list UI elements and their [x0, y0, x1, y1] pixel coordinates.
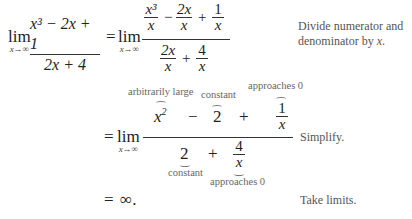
term-4-over-x: 4 x: [233, 139, 245, 170]
plus-sign: +: [208, 144, 218, 164]
rhs-fraction: x³ x − 2x x + 1 x 2x x + 4 x: [142, 2, 230, 76]
lim-subscript: x→∞: [118, 45, 141, 54]
limit-operator-2: lim x→∞: [118, 28, 141, 54]
term-4-over-x: 4 x: [196, 43, 208, 74]
lim-word: lim: [118, 28, 141, 45]
term-2x-over-x: 2x x: [176, 2, 192, 33]
term-2x-over-x: 2x x: [160, 43, 176, 74]
note-divide: Divide numerator and denominator by x.: [298, 19, 403, 49]
equals-sign: =: [104, 127, 114, 147]
limit-operator-1: lim x→∞: [8, 28, 31, 54]
annotation-approaches-top: approaches 0: [248, 80, 303, 91]
term-x3-over-x: x³ x: [144, 2, 158, 33]
term-1-over-x: 1 x: [276, 101, 288, 132]
equals-sign: =: [104, 190, 114, 210]
lhs-numerator: x³ − 2x + 1: [30, 14, 100, 54]
lhs-denominator: 2x + 4: [44, 55, 86, 75]
lim-subscript: x→∞: [117, 145, 140, 154]
note-simplify: Simplify.: [300, 130, 344, 145]
main-fraction-bar: [143, 137, 293, 138]
lhs-fraction: x³ − 2x + 1 2x + 4: [30, 14, 100, 75]
main-fraction-bar: [142, 39, 230, 40]
minus-sign: −: [188, 107, 198, 127]
annotation-constant-top: constant: [201, 89, 236, 100]
note-take-limits: Take limits.: [300, 193, 356, 208]
overbrace: [156, 101, 166, 105]
constant-2: 2: [213, 107, 222, 127]
term-1-over-x: 1 x: [212, 2, 224, 33]
result-infinity: ∞.: [120, 190, 136, 210]
lim-word: lim: [117, 128, 140, 145]
constant-2: 2: [180, 144, 189, 164]
equals-sign: =: [106, 27, 116, 47]
limit-operator-3: lim x→∞: [117, 128, 140, 154]
lim-word: lim: [8, 28, 31, 45]
plus-sign: +: [239, 107, 249, 127]
term-x-squared: x2: [154, 106, 167, 127]
annotation-approaches-bottom: approaches 0: [210, 176, 265, 187]
annotation-arbitrarily-large: arbitrarily large: [128, 86, 193, 97]
lim-subscript: x→∞: [8, 45, 31, 54]
annotation-constant-bottom: constant: [168, 167, 203, 178]
